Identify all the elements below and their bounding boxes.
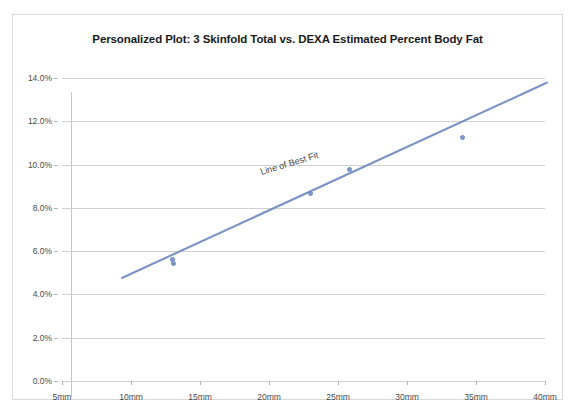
gridline [62,381,545,382]
x-axis-tick [338,381,339,385]
y-axis-tick-label: 0.0% [8,376,52,386]
gridline [62,251,545,252]
y-axis-tick-label: 10.0% [8,160,52,170]
y-axis-tick [54,338,58,339]
y-axis-tick [54,78,58,79]
gridline [62,78,545,79]
x-axis-tick [269,381,270,385]
gridline [62,294,545,295]
y-axis-tick [54,121,58,122]
x-axis-tick-label: 35mm [451,392,501,402]
y-axis-tick [54,165,58,166]
x-axis-tick-label: 10mm [106,392,156,402]
x-axis-tick [407,381,408,385]
data-point [460,135,465,140]
chart-title: Personalized Plot: 3 Skinfold Total vs. … [13,33,562,45]
x-axis-tick-label: 30mm [382,392,432,402]
data-point [308,191,313,196]
y-axis-tick [54,251,58,252]
chart-frame: Personalized Plot: 3 Skinfold Total vs. … [12,14,563,400]
y-axis-tick-label: 14.0% [8,73,52,83]
y-axis-tick-label: 8.0% [8,203,52,213]
x-axis-tick-label: 20mm [244,392,294,402]
gridline [62,165,545,166]
x-axis-tick [131,381,132,385]
gridline [62,208,545,209]
y-axis-tick-label: 6.0% [8,246,52,256]
x-axis-tick-label: 25mm [313,392,363,402]
y-axis-line [71,92,72,397]
gridline [62,338,545,339]
y-axis-tick-label: 2.0% [8,333,52,343]
y-axis-tick [54,208,58,209]
y-axis-tick [54,294,58,295]
x-axis-tick-label: 15mm [175,392,225,402]
gridline [62,121,545,122]
x-axis-tick [545,381,546,385]
data-point [347,167,352,172]
y-axis-tick [54,381,58,382]
x-axis-tick [200,381,201,385]
x-axis-tick [62,381,63,385]
y-axis-tick-label: 12.0% [8,116,52,126]
trendline-label: Line of Best Fit [259,150,319,177]
x-axis-tick [476,381,477,385]
x-axis-tick-label: 40mm [520,392,570,402]
y-axis-tick-label: 4.0% [8,289,52,299]
x-axis-tick-label: 5mm [37,392,87,402]
data-point [171,261,176,266]
